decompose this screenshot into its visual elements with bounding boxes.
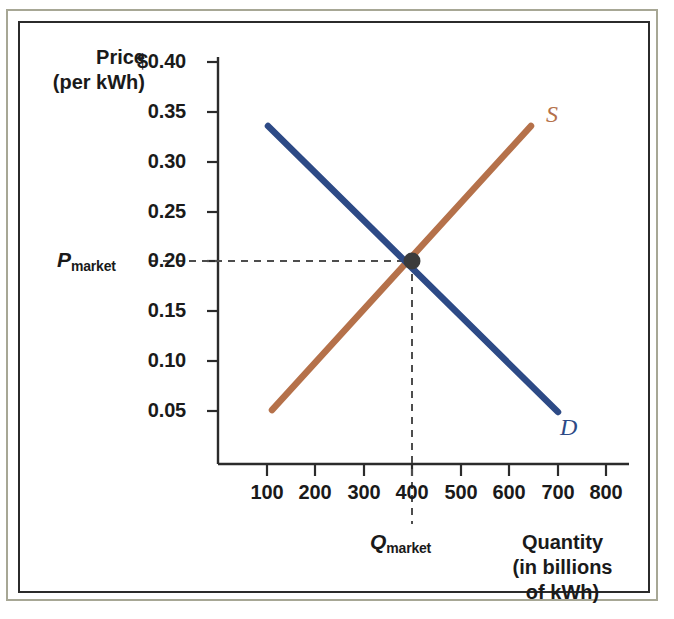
price-market-label: Pmarket [57, 248, 116, 272]
supply-demand-chart: $0.40 0.35 0.30 0.25 0.20 0.15 0.10 0.05… [0, 0, 674, 619]
quantity-market-subscript: market [386, 540, 431, 556]
x-axis-title: Quantity (in billions of kWh) [470, 530, 655, 605]
quantity-market-variable: Q [370, 530, 386, 553]
x-axis-title-line3: of kWh) [470, 580, 655, 605]
x-axis-title-line1: Quantity [470, 530, 655, 555]
x-tick-label-800: 800 [576, 481, 636, 504]
supply-curve-label: S [546, 101, 558, 128]
y-axis-ticks [207, 62, 218, 411]
quantity-market-label: Qmarket [370, 530, 431, 554]
x-axis-ticks [267, 464, 606, 476]
demand-curve-label: D [560, 414, 577, 441]
y-axis-title-line2: (per kWh) [20, 71, 145, 94]
y-tick-label-005: 0.05 [100, 399, 186, 422]
price-market-variable: P [57, 248, 71, 271]
y-tick-label-015: 0.15 [100, 299, 186, 322]
equilibrium-point [404, 253, 421, 270]
y-tick-label-025: 0.25 [100, 200, 186, 223]
price-market-subscript: market [71, 258, 116, 274]
x-axis-title-line2: (in billions [470, 555, 655, 580]
y-tick-label-030: 0.30 [100, 150, 186, 173]
y-tick-label-035: 0.35 [100, 100, 186, 123]
y-tick-label-010: 0.10 [100, 349, 186, 372]
y-axis-title-line1: Price [20, 46, 145, 69]
